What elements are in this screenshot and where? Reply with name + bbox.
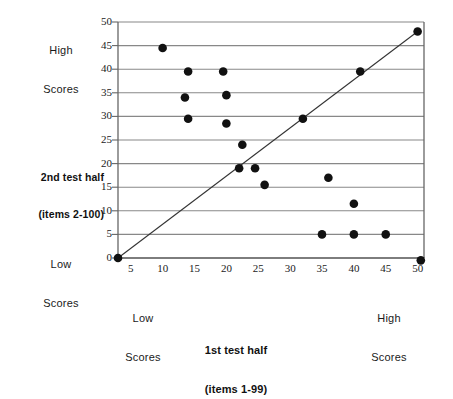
data-point	[350, 230, 359, 239]
y-tick-label-35: 35	[86, 86, 112, 98]
y-tick-label-0: 0	[86, 251, 112, 263]
y-tick-label-30: 30	[86, 109, 112, 121]
data-point	[184, 114, 193, 123]
x-tick-label-25: 25	[244, 262, 272, 274]
y-tick-label-5: 5	[86, 227, 112, 239]
data-point	[350, 199, 359, 208]
data-point	[222, 119, 231, 128]
data-point	[324, 173, 333, 182]
y-tick-label-40: 40	[86, 62, 112, 74]
x-tick-label-15: 15	[181, 262, 209, 274]
reference-line-group	[118, 31, 418, 258]
data-point	[235, 164, 244, 173]
data-point	[158, 44, 167, 53]
data-point	[318, 230, 327, 239]
data-point	[238, 140, 247, 149]
y-tick-label-50: 50	[86, 15, 112, 27]
y-tick-label-20: 20	[86, 157, 112, 169]
x-tick-label-10: 10	[149, 262, 177, 274]
data-point	[299, 114, 308, 123]
x-tick-label-50: 50	[404, 262, 432, 274]
x-tick-label-40: 40	[340, 262, 368, 274]
data-point	[356, 67, 365, 76]
x-axis-title-line2: (items 1-99)	[176, 383, 296, 396]
data-point	[251, 164, 260, 173]
y-tick-label-25: 25	[86, 133, 112, 145]
x-tick-label-35: 35	[308, 262, 336, 274]
gridlines-group	[118, 22, 424, 258]
data-point	[222, 91, 231, 100]
data-point	[260, 181, 269, 190]
x-tick-label-30: 30	[276, 262, 304, 274]
x-tick-label-5: 5	[117, 262, 145, 274]
identity-diagonal-line	[118, 31, 418, 258]
data-point	[413, 27, 422, 36]
x-tick-label-20: 20	[212, 262, 240, 274]
y-tick-label-45: 45	[86, 39, 112, 51]
x-tick-label-45: 45	[372, 262, 400, 274]
y-tick-label-15: 15	[86, 180, 112, 192]
data-points-group	[114, 27, 425, 265]
data-point	[381, 230, 390, 239]
y-tick-label-10: 10	[86, 204, 112, 216]
data-point	[181, 93, 190, 102]
data-point	[219, 67, 228, 76]
data-point	[114, 254, 123, 263]
data-point	[184, 67, 193, 76]
